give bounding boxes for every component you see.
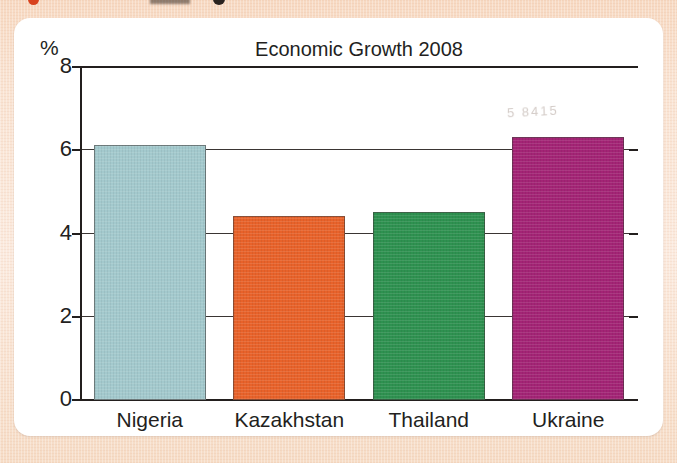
- page-background: % Economic Growth 2008 5 8415 8 6: [0, 0, 677, 463]
- x-axis-label-kazakhstan: Kazakhstan: [220, 408, 360, 432]
- chart-card: % Economic Growth 2008 5 8415 8 6: [14, 18, 663, 436]
- y-tick-mark-4: [72, 233, 80, 235]
- x-axis-label-ukraine: Ukraine: [499, 408, 639, 432]
- bar-chart: % Economic Growth 2008 5 8415 8 6: [14, 18, 663, 436]
- smudge-artifact: [150, 0, 190, 4]
- bar-kazakhstan[interactable]: [233, 216, 345, 400]
- y-tick-mark-8: [72, 66, 80, 68]
- y-tick-mark-0: [72, 399, 80, 401]
- plot-area: [80, 66, 638, 400]
- y-axis-label-0: 0: [32, 386, 72, 412]
- x-axis-label-thailand: Thailand: [359, 408, 499, 432]
- x-axis-label-nigeria: Nigeria: [80, 408, 220, 432]
- y-tick-mark-2: [72, 316, 80, 318]
- scan-edge-artifacts: [0, 0, 677, 14]
- red-dot-artifact: [28, 0, 39, 5]
- bar-nigeria[interactable]: [94, 145, 206, 400]
- y-tick-mark-6: [72, 149, 80, 151]
- y-axis-label-2: 2: [32, 303, 72, 329]
- bar-ukraine[interactable]: [512, 137, 624, 400]
- y-axis-label-6: 6: [32, 136, 72, 162]
- y-axis-label-8: 8: [32, 53, 72, 79]
- dark-dot-artifact: [213, 0, 225, 5]
- y-axis-label-4: 4: [32, 220, 72, 246]
- chart-title: Economic Growth 2008: [80, 38, 638, 61]
- bar-thailand[interactable]: [373, 212, 485, 400]
